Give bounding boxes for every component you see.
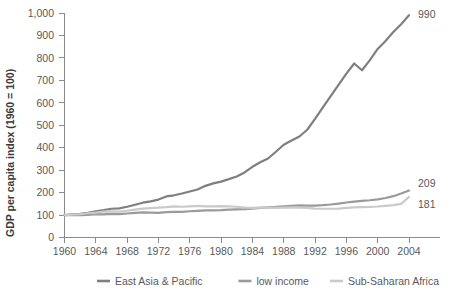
series-end-labels: 990209181	[418, 8, 436, 210]
x-tick-label: 1964	[84, 245, 108, 257]
x-tick-label: 2000	[366, 245, 390, 257]
series-line-0	[65, 15, 410, 215]
y-tick-label: 100	[36, 209, 54, 221]
x-tick-label: 1992	[303, 245, 327, 257]
legend-item-0[interactable]: East Asia & Pacific	[97, 275, 203, 287]
y-tick-label: 900	[36, 29, 54, 41]
y-tick-label: 600	[36, 97, 54, 109]
data-series-group	[65, 15, 410, 215]
y-tick-label: 800	[36, 52, 54, 64]
y-tick-label: 700	[36, 74, 54, 86]
chart-canvas: GDP per capita index (1960 = 100) 010020…	[0, 0, 452, 296]
y-tick-label: 200	[36, 186, 54, 198]
x-tick-label: 1996	[335, 245, 359, 257]
legend-label-1: low income	[256, 275, 309, 287]
gdp-per-capita-line-chart: GDP per capita index (1960 = 100) 010020…	[0, 0, 452, 296]
y-tick-label: 0	[48, 231, 54, 243]
y-tick-label: 300	[36, 164, 54, 176]
y-tick-label: 1,000	[28, 7, 54, 19]
legend-label-0: East Asia & Pacific	[115, 275, 203, 287]
y-axis-title-text: GDP per capita index (1960 = 100)	[4, 69, 16, 237]
x-tick-label: 2004	[397, 245, 421, 257]
series-end-label-0: 990	[418, 8, 436, 20]
x-tick-label: 1988	[272, 245, 296, 257]
legend-item-2[interactable]: Sub-Saharan Africa	[330, 275, 439, 287]
series-line-2	[65, 197, 410, 215]
series-end-label-1: 209	[418, 177, 436, 189]
y-axis-title: GDP per capita index (1960 = 100)	[4, 69, 16, 237]
y-tick-label: 400	[36, 141, 54, 153]
legend-item-1[interactable]: low income	[238, 275, 309, 287]
x-tick-label: 1984	[241, 245, 265, 257]
x-axis-ticks: 1960196419681972197619801984198819921996…	[53, 238, 421, 258]
series-end-label-2: 181	[418, 198, 436, 210]
x-tick-label: 1976	[178, 245, 202, 257]
legend-label-2: Sub-Saharan Africa	[348, 275, 439, 287]
x-tick-label: 1972	[147, 245, 171, 257]
legend: East Asia & Pacificlow incomeSub-Saharan…	[97, 275, 439, 287]
x-tick-label: 1968	[115, 245, 139, 257]
x-tick-label: 1980	[209, 245, 233, 257]
x-tick-label: 1960	[53, 245, 77, 257]
y-axis-ticks: 01002003004005006007008009001,000	[28, 7, 65, 244]
y-tick-label: 500	[36, 119, 54, 131]
